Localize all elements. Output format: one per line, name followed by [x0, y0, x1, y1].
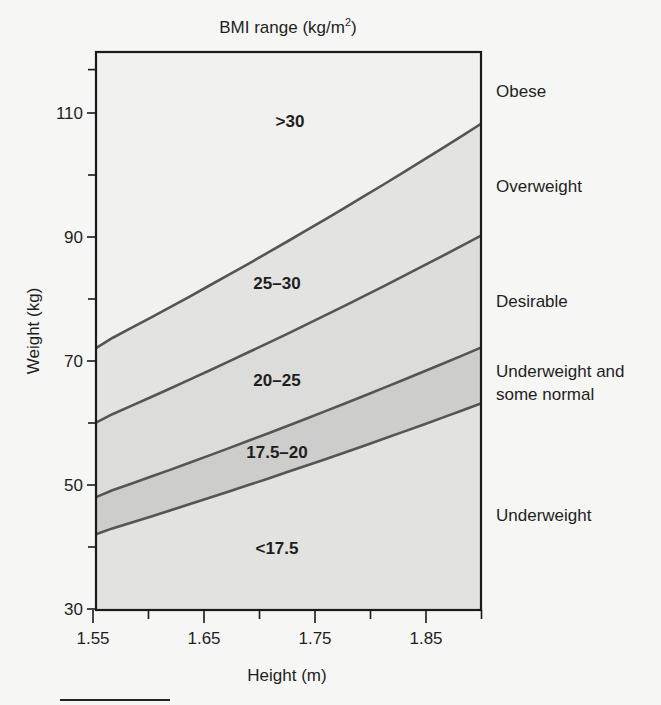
y-tick-label: 90: [64, 228, 83, 247]
bmi-chart: 305070901101.551.651.751.85 >3025–3020–2…: [0, 0, 661, 705]
chart-canvas: 305070901101.551.651.751.85 >3025–3020–2…: [0, 0, 661, 705]
category-label: Overweight: [496, 177, 582, 196]
category-labels: ObeseOverweightDesirableUnderweight ands…: [496, 82, 625, 525]
y-tick-label: 110: [56, 104, 83, 123]
x-tick-label: 1.85: [409, 629, 442, 648]
chart-title: BMI range (kg/m2): [219, 16, 356, 37]
y-tick-label: 50: [64, 476, 83, 495]
bmi-range-label: >30: [276, 112, 305, 131]
y-axis-label: Weight (kg): [24, 288, 43, 375]
bmi-range-label: <17.5: [255, 539, 298, 558]
bmi-bands: [96, 52, 482, 610]
category-label: Obese: [496, 82, 546, 101]
caption-rule: [60, 699, 170, 701]
y-tick-label: 30: [64, 600, 83, 619]
x-tick-label: 1.55: [76, 629, 109, 648]
category-label: Underweight: [496, 506, 592, 525]
x-axis-label: Height (m): [247, 666, 326, 685]
y-tick-label: 70: [64, 352, 83, 371]
bmi-range-label: 17.5–20: [246, 443, 307, 462]
x-tick-label: 1.75: [298, 629, 331, 648]
bmi-range-label: 20–25: [253, 371, 300, 390]
category-label: Underweight andsome normal: [496, 362, 625, 404]
x-tick-label: 1.65: [187, 629, 220, 648]
bmi-range-label: 25–30: [253, 274, 300, 293]
category-label: Desirable: [496, 292, 568, 311]
